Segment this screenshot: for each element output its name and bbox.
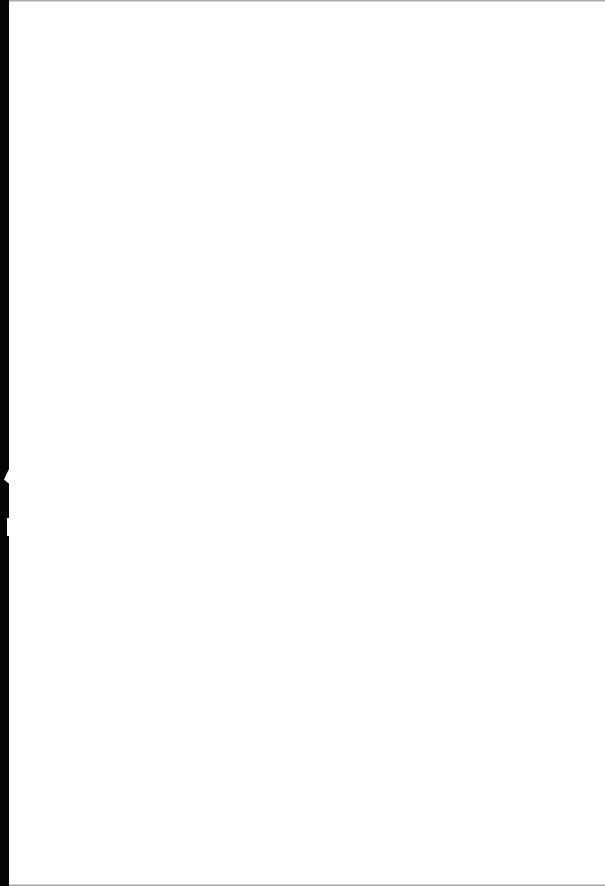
blank-page xyxy=(0,0,605,886)
page-edge-top xyxy=(9,0,605,2)
scanner-edge-left xyxy=(0,0,9,886)
page-edge-nick xyxy=(7,518,11,536)
